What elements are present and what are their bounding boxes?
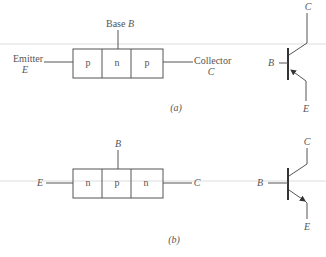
figure-a-block: p n p Base B Emitter E Collector C (a) [13, 18, 232, 114]
region-label: p [145, 57, 150, 68]
collector-symbol: C [208, 66, 215, 77]
emitter-symbol: E [21, 64, 28, 75]
emitter-symbol: E [302, 103, 309, 114]
region-label: n [115, 57, 120, 68]
figure-label: (a) [170, 102, 182, 114]
collector-lead [289, 13, 307, 55]
collector-label: Collector [194, 55, 232, 66]
base-symbol: B [268, 57, 274, 68]
region-label: p [115, 177, 120, 188]
region-label: p [86, 57, 91, 68]
base-symbol: B [115, 138, 121, 149]
base-symbol: B [257, 177, 263, 188]
emitter-arrow [289, 190, 305, 201]
pnp-symbol: B C E [268, 1, 312, 114]
collector-symbol: C [305, 1, 312, 12]
emitter-label: Emitter [13, 53, 44, 64]
region-label: n [144, 177, 149, 188]
collector-symbol: C [194, 177, 201, 188]
collector-symbol: C [304, 136, 311, 147]
emitter-symbol: E [303, 221, 310, 232]
transistor-diagram: p n p Base B Emitter E Collector C (a) B… [0, 0, 326, 257]
figure-b-block: n p n B E C (b) [36, 138, 201, 246]
npn-symbol: B C E [257, 136, 311, 232]
figure-label: (b) [168, 234, 180, 246]
emitter-lead [305, 201, 307, 219]
region-label: n [86, 177, 91, 188]
base-label: Base B [106, 18, 134, 29]
emitter-arrow [291, 70, 306, 101]
collector-lead [289, 148, 307, 176]
emitter-symbol: E [36, 177, 43, 188]
